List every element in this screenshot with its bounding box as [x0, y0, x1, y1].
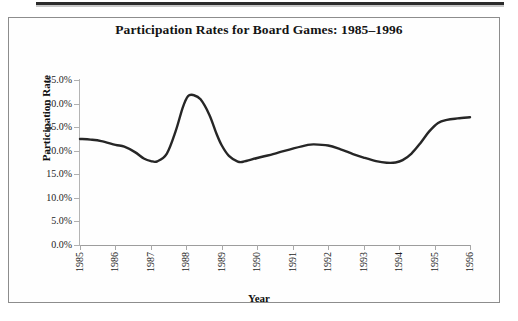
y-tick-label-text: 0.0%	[26, 240, 72, 250]
x-tick-label: 1995	[429, 252, 441, 292]
x-tick-mark	[470, 245, 471, 250]
x-tick-label: 1988	[180, 252, 192, 292]
y-tick-mark	[74, 151, 80, 152]
x-tick-mark	[293, 245, 294, 250]
chart-title: Participation Rates for Board Games: 198…	[0, 22, 518, 38]
y-tick-label-text: 5.0%	[26, 216, 72, 226]
y-tick-mark	[74, 221, 80, 222]
x-tick-mark	[435, 245, 436, 250]
x-tick-label: 1991	[287, 252, 299, 292]
y-tick-label-text: 10.0%	[26, 193, 72, 203]
x-tick-mark	[364, 245, 365, 250]
y-tick-label: 20.0%	[22, 146, 72, 156]
x-tick-label: 1996	[464, 252, 476, 292]
y-tick-label: 30.0%	[22, 99, 72, 109]
x-axis-title: Year	[0, 292, 518, 304]
x-tick-label: 1990	[251, 252, 263, 292]
y-tick-label-text: 35.0%	[26, 75, 72, 85]
x-tick-mark	[222, 245, 223, 250]
x-tick-mark	[80, 245, 81, 250]
y-tick-mark	[74, 198, 80, 199]
x-tick-mark	[399, 245, 400, 250]
y-tick-label: 15.0%	[22, 169, 72, 179]
y-tick-label-text: 20.0%	[26, 146, 72, 156]
page-rule-top-shadow	[36, 5, 504, 7]
y-tick-mark	[74, 174, 80, 175]
y-tick-label: 5.0%	[22, 216, 72, 226]
x-tick-mark	[151, 245, 152, 250]
x-tick-mark	[328, 245, 329, 250]
x-tick-label: 1989	[216, 252, 228, 292]
y-tick-label: 35.0%	[22, 75, 72, 85]
x-tick-label: 1992	[322, 252, 334, 292]
y-tick-label: 0.0%	[22, 240, 72, 250]
x-tick-mark	[115, 245, 116, 250]
y-tick-label-text: 25.0%	[26, 122, 72, 132]
y-tick-mark	[74, 80, 80, 81]
x-tick-mark	[257, 245, 258, 250]
y-tick-label-text: 30.0%	[26, 99, 72, 109]
y-tick-label: 25.0%	[22, 122, 72, 132]
x-tick-mark	[186, 245, 187, 250]
x-axis-line	[79, 245, 471, 246]
x-tick-label: 1985	[74, 252, 86, 292]
y-tick-mark	[74, 104, 80, 105]
x-tick-label: 1994	[393, 252, 405, 292]
x-tick-label: 1987	[145, 252, 157, 292]
y-tick-mark	[74, 127, 80, 128]
x-tick-label: 1986	[109, 252, 121, 292]
y-tick-label: 10.0%	[22, 193, 72, 203]
y-tick-label-text: 15.0%	[26, 169, 72, 179]
x-tick-label: 1993	[358, 252, 370, 292]
